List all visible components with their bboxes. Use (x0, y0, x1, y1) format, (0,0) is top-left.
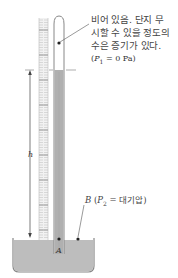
vacuum-line-1: 비어 있음. 단지 무 (91, 13, 177, 26)
vacuum-line-2: 시할 수 있을 정도의 (91, 26, 177, 39)
vacuum-line-3: 수은 증기가 있다. (91, 39, 177, 52)
vacuum-annotation: 비어 있음. 단지 무 시할 수 있을 정도의 수은 증기가 있다. (91, 13, 177, 52)
glass-tube (54, 16, 64, 254)
height-label: h (28, 150, 33, 159)
point-a-label: A (56, 246, 62, 255)
p1-rest: = 0 Pa) (103, 54, 135, 63)
p2-rest: = 대기압) (107, 195, 147, 205)
point-b-label: B (P2 = 대기압) (85, 193, 147, 207)
p1-label: (P1 = 0 Pa) (91, 54, 136, 65)
scale-ruler (39, 18, 48, 240)
